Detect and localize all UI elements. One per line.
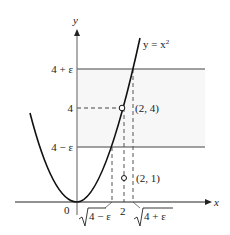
limit-diagram: y x 0 y = x2 4 + ε 4 4 − ε (2, 4) (2, 1)… xyxy=(0,0,230,235)
origin-label: 0 xyxy=(64,204,70,216)
point-2-4 xyxy=(119,105,125,111)
point-2-1-label: (2, 1) xyxy=(136,172,160,185)
point-2-4-label: (2, 4) xyxy=(135,102,159,115)
curve-label: y = x2 xyxy=(143,38,170,50)
x-tick-sqrt-4-plus-epsilon: 4 + ε xyxy=(133,202,173,226)
y-tick-4-minus-epsilon: 4 − ε xyxy=(51,141,73,153)
y-axis-label: y xyxy=(72,14,78,26)
y-tick-4: 4 xyxy=(68,102,74,114)
svg-text:4 − ε: 4 − ε xyxy=(89,210,111,222)
point-2-1 xyxy=(122,176,127,181)
x-axis-label: x xyxy=(213,196,219,208)
y-axis-arrow-icon xyxy=(74,29,80,36)
svg-text:4 + ε: 4 + ε xyxy=(144,210,166,222)
y-tick-4-plus-epsilon: 4 + ε xyxy=(51,63,73,75)
x-tick-sqrt-4-minus-epsilon: 4 − ε xyxy=(79,202,112,226)
x-axis-arrow-icon xyxy=(205,199,212,205)
x-tick-2: 2 xyxy=(120,205,126,217)
